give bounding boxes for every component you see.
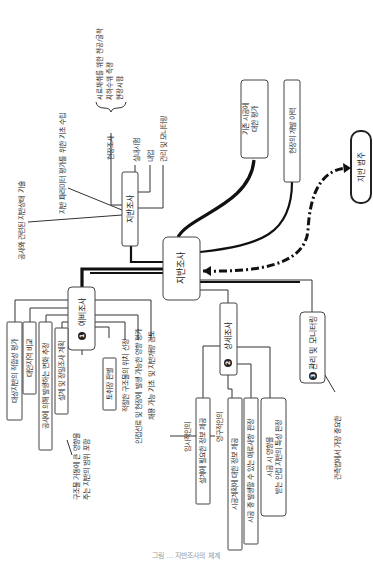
connector-central-history — [200, 182, 292, 252]
preliminary-number: 1 — [78, 334, 85, 338]
det-side-temporary: 임시적인의 — [183, 422, 192, 452]
branch-det-2 — [228, 375, 232, 398]
field-item-drilling: 시료채취를 위한 천공/굴착 — [95, 28, 104, 100]
connector-central-existing — [178, 160, 254, 237]
pre-text-item-3: 채용 가능 기초 및 지반개량 검토 — [147, 330, 156, 420]
existing-evaluation-label-line-2: 대한 평가 — [250, 105, 259, 132]
branch-office-work — [138, 165, 150, 192]
pre-item-3: 공사에 의해 발생하는 변화 추정 — [41, 343, 50, 430]
monitoring-label: 관리 및 모니터링 — [308, 316, 318, 370]
branch-label-monitoring: 관리 및 모니터링 — [159, 116, 168, 162]
det-item-3: 시공 중 발생할 수 있는 애로사항 판정 — [246, 419, 255, 522]
central-node-label: 지반조사 — [176, 251, 186, 284]
field-item-groundwater: 지하수위 측정 — [105, 62, 114, 100]
branch-pre-4 — [62, 322, 68, 328]
detailed-number: 2 — [224, 361, 231, 365]
branch-det-3 — [237, 364, 251, 398]
mind-map-diagram: 지반조사 지반조사 현장조사 실내시험 내업 관리 및 모니터링 시료채취를 위… — [0, 0, 373, 562]
det-item-1: 설계에 필요한 정보 제공 — [198, 417, 207, 485]
leader-monitoring-note — [325, 375, 335, 392]
connector-central-detailed — [200, 290, 228, 303]
connector-central-preliminary — [82, 269, 163, 287]
connector-central-ground-info — [131, 246, 163, 262]
det-side-permanent: 영구적인의 — [215, 412, 224, 442]
branch-det-4 — [237, 347, 270, 398]
pre-item-5: 토취장 판별 — [105, 368, 114, 400]
detailed-label: 상세조사 — [223, 321, 233, 350]
pre-item-2: 대안지역 비교 — [25, 338, 34, 377]
field-item-field-test: 현장시험 — [115, 76, 124, 100]
figure-caption: 그림 ... 지반조사의 체계 — [152, 551, 219, 560]
preliminary-label: 예비조사 — [77, 297, 87, 326]
field-items-bracket — [96, 102, 126, 112]
connector-central-category-arrow — [203, 168, 347, 271]
branch-label-office-work: 내업 — [146, 150, 155, 162]
pre-item-1: 대상지반의 적합성 평가 — [10, 338, 19, 403]
pre-note-line-1: 구조물 거동에 큰 영향을 — [72, 432, 81, 500]
det-item-4-line-1: 시공 시 영향을 — [265, 436, 274, 477]
pre-text-item-2: 인접선로 및 현장에 발생 가능한 영향 평가 — [134, 328, 143, 444]
branch-pre-6 — [95, 322, 125, 340]
existing-evaluation-label-line-1: 기존 시공에 — [241, 103, 250, 135]
pre-note-line-2: 주는 지반의 범위 포함 — [82, 438, 91, 500]
note-parameter-basis: 지반 파라미터 평가를 위한 기초 수립 — [58, 113, 67, 214]
arrow-tail-icon — [203, 266, 211, 276]
branch-pre-1 — [15, 300, 68, 322]
branch-label-field-survey: 현장조사 — [106, 135, 115, 160]
arrow-head-icon — [343, 163, 351, 173]
pre-note-wrapper — [40, 440, 160, 500]
branch-label-lab-test: 실내시험 — [132, 138, 141, 162]
site-history-label: 현장의 개발 이력 — [288, 108, 297, 154]
connector-central-monitoring — [200, 280, 312, 312]
det-item-2: 시공계획에 대한 정보 제공 — [230, 437, 239, 511]
leader-parameter-note — [68, 188, 122, 210]
pre-text-item-1: 적절한 구조물의 위치 선정 — [121, 339, 130, 412]
ground-category-label: 지반 범주 — [356, 152, 366, 182]
det-item-4-line-2: 받는 인접 지반의 특성 판정 — [274, 420, 283, 495]
leader-ground-desc-note — [28, 215, 122, 222]
monitoring-number: 3 — [309, 374, 316, 378]
ground-info-node-label: 지반조사 — [126, 194, 135, 223]
branch-pre-3 — [46, 315, 68, 322]
branch-pre-5 — [95, 327, 109, 338]
note-ground-description: 공사와 관련된 지반상태 기술 — [17, 180, 26, 260]
monitoring-note: 관측법에서 가장 중요한 — [333, 415, 342, 480]
pre-item-4: 설계 및 정밀조사 계획 — [57, 341, 66, 402]
branch-det-1 — [203, 346, 220, 398]
